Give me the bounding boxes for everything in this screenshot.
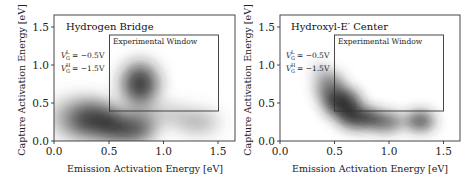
density-heatmap	[50, 64, 218, 142]
gate-voltage-annotation: V L G = −0.5V V H G = −1.5V	[61, 49, 105, 75]
panel-hydroxyl-e-center: Experimental Window Hydroxyl-E′ Center V…	[242, 4, 460, 174]
figure: Experimental Window Hydrogen Bridge V L …	[0, 0, 476, 183]
x-tick: 1.5	[210, 145, 227, 157]
vg-low-value: = −0.5V	[297, 51, 330, 60]
svg-text:H: H	[291, 62, 296, 68]
y-axis-label: Capture Activation Energy [eV]	[16, 4, 27, 156]
y-axis-label: Capture Activation Energy [eV]	[242, 4, 253, 156]
x-tick: 1.0	[381, 145, 398, 157]
experimental-window-label: Experimental Window	[113, 37, 198, 46]
x-axis-label: Emission Activation Energy [eV]	[292, 163, 448, 174]
x-tick: 0.0	[46, 145, 63, 157]
svg-text:G: G	[291, 68, 295, 74]
gate-voltage-annotation: V L G = −0.5V V H G = −1.5V	[286, 49, 330, 75]
svg-text:H: H	[66, 62, 71, 68]
svg-text:L: L	[66, 49, 70, 55]
svg-text:G: G	[291, 55, 295, 61]
svg-text:G: G	[66, 68, 70, 74]
panel-title: Hydrogen Bridge	[66, 21, 154, 32]
x-tick: 1.0	[155, 145, 172, 157]
vg-high-value: = −1.5V	[72, 64, 105, 73]
x-axis-label: Emission Activation Energy [eV]	[67, 163, 223, 174]
panel-title: Hydroxyl-E′ Center	[291, 21, 388, 32]
experimental-window-label: Experimental Window	[338, 37, 423, 46]
x-tick: 1.5	[435, 145, 452, 157]
x-tick: 0.0	[272, 145, 289, 157]
svg-text:G: G	[66, 55, 70, 61]
vg-low-value: = −0.5V	[72, 51, 105, 60]
panel-hydrogen-bridge: Experimental Window Hydrogen Bridge V L …	[16, 4, 235, 174]
y-tick: 0.5	[32, 97, 49, 109]
x-tick: 0.5	[326, 145, 343, 157]
y-tick: 1.5	[32, 21, 49, 33]
y-tick: 1.5	[258, 21, 275, 33]
density-heatmap	[312, 62, 434, 131]
y-tick: 1.0	[258, 59, 275, 71]
y-tick: 0.5	[258, 97, 275, 109]
svg-text:L: L	[291, 49, 295, 55]
x-tick: 0.5	[101, 145, 118, 157]
vg-high-value: = −1.5V	[297, 64, 330, 73]
y-tick: 1.0	[32, 59, 49, 71]
